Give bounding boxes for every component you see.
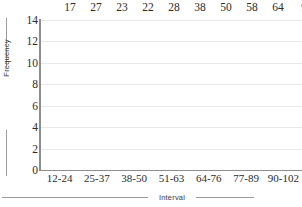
top-data-value-truncated: 9 [294, 0, 302, 14]
y-axis-tick-label: 10 [20, 57, 38, 69]
gridline [41, 41, 302, 42]
gridline [41, 127, 302, 128]
y-axis-tick-label: 14 [20, 14, 38, 26]
y-axis-title-rule-bottom [6, 130, 7, 176]
top-data-value: 27 [86, 0, 106, 14]
top-data-value: 17 [60, 0, 80, 14]
x-axis-title-rule-left [2, 197, 148, 198]
top-data-value: 58 [242, 0, 262, 14]
y-axis-tick-labels: 02468101214 [20, 14, 38, 176]
y-axis-tick-label: 8 [20, 78, 38, 90]
x-axis-tick-label: 38-50 [116, 172, 153, 185]
top-data-value: 28 [164, 0, 184, 14]
plot-area [41, 20, 302, 170]
x-axis-title-rule-right [196, 197, 254, 198]
gridline [41, 106, 302, 107]
x-axis-tick-label: 51-63 [153, 172, 190, 185]
x-axis-tick-label: 90-102 [265, 172, 302, 185]
top-data-row: 1727232228385058649 [0, 0, 302, 15]
x-axis-title-group: Interval [0, 190, 302, 204]
y-axis-tick-label: 2 [20, 143, 38, 155]
x-axis-tick-labels: 12-2425-3738-5051-6364-7677-8990-102 [41, 172, 302, 186]
x-axis-tick-label: 12-24 [41, 172, 78, 185]
y-axis-title: Frequency [1, 30, 13, 86]
gridline [41, 149, 302, 150]
x-axis-tick-label: 25-37 [78, 172, 115, 185]
x-axis-title: Interval [148, 191, 196, 204]
top-data-value: 38 [190, 0, 210, 14]
y-axis-tick-label: 12 [20, 35, 38, 47]
top-data-value: 64 [268, 0, 288, 14]
top-data-value: 50 [216, 0, 236, 14]
top-data-value: 23 [112, 0, 132, 14]
y-axis-tick-label: 0 [20, 164, 38, 176]
gridline [41, 20, 302, 21]
x-axis-baseline [41, 170, 302, 171]
x-axis-tick-label: 64-76 [190, 172, 227, 185]
y-axis-tick-label: 4 [20, 121, 38, 133]
y-axis-tick-label: 6 [20, 100, 38, 112]
top-data-value: 22 [138, 0, 158, 14]
gridline [41, 84, 302, 85]
x-axis-tick-label: 77-89 [227, 172, 264, 185]
gridline [41, 63, 302, 64]
chart-screenshot: 1727232228385058649 Frequency 0246810121… [0, 0, 302, 207]
